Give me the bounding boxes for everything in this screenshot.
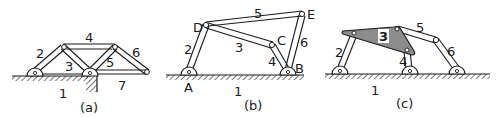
link-label-6: 6 bbox=[300, 35, 308, 50]
joint-label-E: E bbox=[307, 7, 315, 22]
link-label-1: 1 bbox=[234, 84, 242, 99]
link-label-7: 7 bbox=[118, 78, 126, 93]
link-label-6: 6 bbox=[132, 45, 140, 60]
link-label-3: 3 bbox=[235, 40, 243, 55]
panel-c: 3 2 4 5 6 1 (c) bbox=[325, 20, 490, 111]
joint-E bbox=[299, 11, 304, 16]
link-label-2: 2 bbox=[335, 45, 343, 60]
joint-D bbox=[203, 22, 208, 27]
ground-pivot-a-mid bbox=[82, 68, 98, 76]
link-label-2: 2 bbox=[184, 42, 192, 57]
ground-a bbox=[12, 76, 97, 92]
joint-label-B: B bbox=[295, 61, 304, 76]
joint-c-3-5 bbox=[395, 27, 399, 31]
joint-a-right bbox=[145, 70, 150, 75]
link-label-1: 1 bbox=[371, 83, 379, 98]
link-label-4: 4 bbox=[399, 54, 407, 69]
caption-a: (a) bbox=[80, 100, 98, 115]
link-label-5: 5 bbox=[254, 6, 262, 21]
link-label-5: 5 bbox=[106, 55, 114, 70]
link-label-6: 6 bbox=[447, 44, 455, 59]
joint-label-C: C bbox=[277, 33, 286, 48]
ground-pivot-A bbox=[181, 67, 197, 75]
link-label-4: 4 bbox=[85, 30, 93, 45]
link-label-1: 1 bbox=[59, 86, 67, 101]
joint-c-2-3 bbox=[352, 31, 356, 35]
joint-c-3-4 bbox=[405, 48, 409, 52]
joint-c-5-6 bbox=[433, 37, 438, 42]
ground-pivot-c-left bbox=[332, 66, 348, 74]
caption-b: (b) bbox=[244, 98, 262, 113]
link-label-4: 4 bbox=[268, 54, 276, 69]
ground-c bbox=[325, 74, 490, 79]
link-label-2: 2 bbox=[36, 46, 44, 61]
caption-c: (c) bbox=[396, 96, 413, 111]
link-7-a bbox=[94, 70, 146, 74]
link-label-5: 5 bbox=[416, 20, 424, 35]
link-label-3: 3 bbox=[65, 59, 73, 74]
joint-C bbox=[269, 42, 274, 47]
linkage-diagram: 2 4 3 5 6 7 1 (a) bbox=[0, 0, 498, 117]
joint-a-top-right bbox=[113, 45, 118, 50]
joint-label-D: D bbox=[193, 20, 203, 35]
joint-a-top-left bbox=[62, 45, 67, 50]
panel-b: D 5 E 2 3 C 6 4 B A 1 (b) bbox=[166, 6, 315, 113]
link-label-3: 3 bbox=[379, 29, 388, 44]
joint-label-A: A bbox=[184, 80, 193, 95]
panel-a: 2 4 3 5 6 7 1 (a) bbox=[12, 30, 149, 115]
